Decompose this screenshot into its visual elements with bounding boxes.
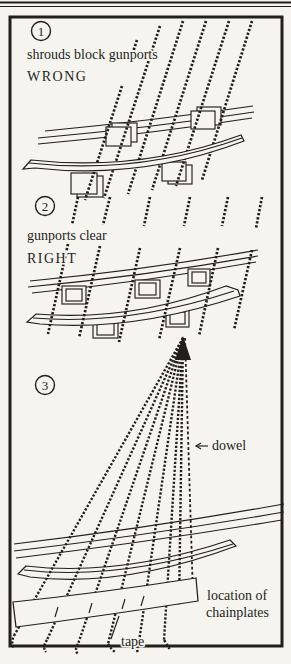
panel-2-verdict: RIGHT — [27, 251, 77, 266]
chainplates-label-line2: chainplates — [206, 605, 269, 620]
wale-line — [14, 504, 284, 544]
panel-1-verdict: WRONG — [27, 69, 87, 84]
panel-3: 3 dowel location of chainplates tape — [12, 336, 284, 654]
dowel-label-group: dowel — [196, 438, 246, 453]
diagram-canvas: 1 shrouds block gunports WRONG — [0, 0, 291, 664]
panel-3-number: 3 — [42, 378, 49, 393]
figure-frame — [10, 17, 282, 646]
wale-line — [14, 512, 284, 551]
book-figure-page: 1 shrouds block gunports WRONG — [0, 0, 291, 664]
panel-1-number: 1 — [38, 24, 45, 39]
shroud-tail-curls — [12, 634, 170, 654]
gunport — [162, 162, 192, 184]
shroud-line — [103, 197, 110, 225]
tape-label: tape — [121, 634, 144, 649]
shroud-line — [176, 21, 229, 186]
panel-1-wales — [38, 106, 254, 144]
top-rules — [0, 3, 291, 7]
panel-1-number-badge: 1 — [32, 22, 51, 41]
shroud-line — [256, 197, 262, 228]
panel-3-number-badge: 3 — [36, 376, 55, 395]
gunport — [62, 286, 86, 304]
curl — [76, 644, 78, 654]
gunport — [106, 123, 137, 146]
gunport — [191, 107, 221, 129]
panel-1: 1 shrouds block gunports WRONG — [23, 21, 254, 200]
panel-2-number-badge: 2 — [36, 197, 55, 216]
shroud-line — [184, 197, 190, 226]
gunport — [188, 269, 210, 286]
panel-3-wales — [14, 504, 284, 558]
chainplates-label-line1: location of — [207, 588, 268, 603]
shroud-line — [202, 21, 252, 180]
panel-1-caption: shrouds block gunports — [27, 47, 158, 62]
gunport — [135, 280, 160, 298]
panel-2: 2 gunports clear RIGHT — [27, 197, 262, 343]
shroud-line — [144, 197, 150, 226]
dowel-label: dowel — [212, 438, 246, 453]
tape-strip — [13, 578, 198, 627]
panel-2-number: 2 — [42, 199, 49, 214]
panel-2-caption: gunports clear — [27, 228, 107, 243]
panel-2-drawing — [27, 197, 262, 342]
chainplates-label-group: location of chainplates — [206, 588, 269, 620]
shroud-line — [72, 197, 78, 225]
shroud-line — [222, 197, 228, 226]
